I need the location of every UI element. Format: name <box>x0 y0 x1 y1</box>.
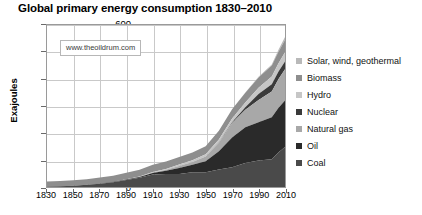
x-axis-tick-mark <box>233 189 234 193</box>
x-axis-tick-mark <box>179 189 180 193</box>
legend-item-label: Nuclear <box>307 107 338 117</box>
legend-swatch-icon <box>296 143 302 149</box>
legend-item-label: Oil <box>307 141 318 151</box>
legend-item[interactable]: Oil <box>296 137 422 154</box>
legend-item[interactable]: Coal <box>296 154 422 171</box>
watermark-label: www.theoildrum.com <box>60 40 141 56</box>
x-axis-tick-mark <box>153 189 154 193</box>
legend-swatch-icon <box>296 92 302 98</box>
legend-swatch-icon <box>296 109 302 115</box>
legend-swatch-icon <box>296 160 302 166</box>
legend-item[interactable]: Solar, wind, geothermal <box>296 52 422 69</box>
x-axis-tick-mark <box>259 189 260 193</box>
energy-consumption-chart: Global primary energy consumption 1830–2… <box>0 0 422 215</box>
legend-item[interactable]: Natural gas <box>296 120 422 137</box>
legend-item-label: Coal <box>307 158 326 168</box>
legend-swatch-icon <box>296 126 302 132</box>
legend-swatch-icon <box>296 75 302 81</box>
chart-title: Global primary energy consumption 1830–2… <box>0 2 290 14</box>
legend-item[interactable]: Hydro <box>296 86 422 103</box>
legend-swatch-icon <box>296 58 302 64</box>
x-axis-tick-mark <box>126 189 127 193</box>
x-axis-tick-mark <box>286 189 287 193</box>
chart-legend: Solar, wind, geothermalBiomassHydroNucle… <box>296 52 422 171</box>
legend-item[interactable]: Biomass <box>296 69 422 86</box>
legend-item[interactable]: Nuclear <box>296 103 422 120</box>
x-axis-tick-mark <box>206 189 207 193</box>
x-axis-tick-mark <box>73 189 74 193</box>
x-axis-tick-mark <box>99 189 100 193</box>
legend-item-label: Solar, wind, geothermal <box>307 56 401 66</box>
legend-item-label: Biomass <box>307 73 342 83</box>
legend-item-label: Natural gas <box>307 124 353 134</box>
x-axis-tick-mark <box>46 189 47 193</box>
legend-item-label: Hydro <box>307 90 331 100</box>
y-axis-label: Exajoules <box>8 61 19 141</box>
